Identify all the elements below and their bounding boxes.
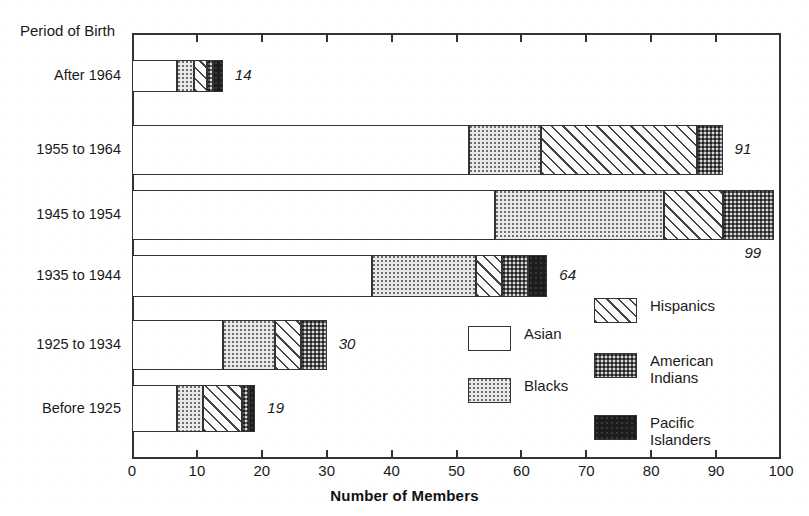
category-label-4: 1925 to 1934 <box>0 336 121 352</box>
bottom-tick-20 <box>261 450 263 459</box>
bottom-tick-70 <box>585 450 587 459</box>
category-label-3: 1935 to 1944 <box>0 267 121 283</box>
bar-1-segment-3 <box>697 125 723 175</box>
bar-4-segment-3 <box>301 320 327 370</box>
bar-2-segment-1 <box>495 190 664 240</box>
bar-total-label-1: 91 <box>735 140 752 157</box>
bar-2-segment-0 <box>132 190 495 240</box>
bar-1-segment-2 <box>541 125 697 175</box>
bottom-tick-60 <box>520 450 522 459</box>
legend-item-hispanics: Hispanics <box>594 297 715 323</box>
top-tick-80 <box>650 33 652 42</box>
x-tick-label-30: 30 <box>318 462 335 479</box>
bar-2-segment-2 <box>664 190 722 240</box>
bar-5-segment-1 <box>177 385 203 432</box>
bar-2-segment-3 <box>723 190 775 240</box>
top-tick-50 <box>456 33 458 42</box>
bar-4 <box>132 320 327 370</box>
bar-3-segment-0 <box>132 255 372 297</box>
bar-5-segment-0 <box>132 385 177 432</box>
category-label-0: After 1964 <box>0 67 121 83</box>
legend-item-asian: Asian <box>468 325 562 351</box>
bar-4-segment-0 <box>132 320 223 370</box>
legend-label: Blacks <box>524 377 568 394</box>
bar-1 <box>132 125 723 175</box>
legend-label: Hispanics <box>650 297 715 314</box>
legend-swatch-dark-dots <box>594 353 637 378</box>
x-tick-label-20: 20 <box>253 462 270 479</box>
x-tick-label-50: 50 <box>448 462 465 479</box>
bottom-tick-30 <box>326 450 328 459</box>
bar-total-label-3: 64 <box>559 266 576 283</box>
bar-3-segment-2 <box>476 255 502 297</box>
legend-swatch-solid-black <box>594 415 637 440</box>
bar-4-segment-1 <box>223 320 275 370</box>
bar-0-segment-0 <box>132 60 177 92</box>
bar-total-label-4: 30 <box>339 335 356 352</box>
bottom-tick-50 <box>456 450 458 459</box>
top-tick-70 <box>585 33 587 42</box>
x-tick-label-60: 60 <box>513 462 530 479</box>
bar-4-segment-2 <box>275 320 301 370</box>
bar-total-label-5: 19 <box>267 399 284 416</box>
bar-5-segment-4 <box>249 385 255 432</box>
bar-total-label-2: 99 <box>745 244 762 261</box>
bar-1-segment-1 <box>469 125 540 175</box>
bottom-tick-40 <box>391 450 393 459</box>
x-axis-title: Number of Members <box>0 487 809 504</box>
category-label-2: 1945 to 1954 <box>0 206 121 222</box>
category-label-5: Before 1925 <box>0 400 121 416</box>
bar-3-segment-1 <box>372 255 476 297</box>
bottom-tick-10 <box>196 450 198 459</box>
bar-0-segment-4 <box>213 60 223 92</box>
legend-swatch-white <box>468 326 511 351</box>
top-tick-30 <box>326 33 328 42</box>
y-axis-title: Period of Birth <box>20 22 115 39</box>
x-tick-label-10: 10 <box>189 462 206 479</box>
x-tick-label-70: 70 <box>578 462 595 479</box>
bar-0-segment-1 <box>177 60 193 92</box>
bar-0-segment-3 <box>207 60 213 92</box>
bar-total-label-0: 14 <box>235 66 252 83</box>
top-tick-90 <box>715 33 717 42</box>
x-tick-label-40: 40 <box>383 462 400 479</box>
bar-3-segment-3 <box>502 255 528 297</box>
stacked-bar-chart: Period of Birth 0102030405060708090100 A… <box>0 0 809 516</box>
bar-2 <box>132 190 775 240</box>
legend-swatch-light-dots <box>468 378 511 403</box>
legend-label: Asian <box>524 325 562 342</box>
legend-swatch-diagonal-hatch <box>594 298 637 323</box>
legend-label: Pacific Islanders <box>650 414 711 448</box>
x-tick-label-80: 80 <box>643 462 660 479</box>
category-label-1: 1955 to 1964 <box>0 141 121 157</box>
x-tick-label-90: 90 <box>708 462 725 479</box>
top-tick-60 <box>520 33 522 42</box>
x-tick-label-0: 0 <box>128 462 136 479</box>
top-tick-40 <box>391 33 393 42</box>
bar-3 <box>132 255 547 297</box>
top-tick-10 <box>196 33 198 42</box>
x-tick-label-100: 100 <box>768 462 793 479</box>
bar-1-segment-0 <box>132 125 469 175</box>
legend-item-american-indians: American Indians <box>594 352 713 386</box>
bar-5-segment-2 <box>203 385 242 432</box>
bottom-tick-90 <box>715 450 717 459</box>
bar-0 <box>132 60 223 92</box>
legend-item-blacks: Blacks <box>468 377 568 403</box>
bottom-tick-80 <box>650 450 652 459</box>
bar-5 <box>132 385 255 432</box>
legend-label: American Indians <box>650 352 713 386</box>
bar-3-segment-4 <box>528 255 547 297</box>
legend-item-pacific-islanders: Pacific Islanders <box>594 414 711 448</box>
bar-0-segment-2 <box>194 60 207 92</box>
top-tick-20 <box>261 33 263 42</box>
